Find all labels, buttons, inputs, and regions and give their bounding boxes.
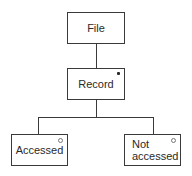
node-record-label: Record bbox=[78, 78, 113, 90]
edge-branch-not-accessed bbox=[153, 117, 154, 134]
node-accessed: Accessed bbox=[11, 134, 68, 166]
iteration-marker-icon bbox=[117, 72, 120, 75]
node-accessed-label: Accessed bbox=[16, 144, 64, 156]
node-file: File bbox=[67, 12, 125, 44]
selection-marker-icon bbox=[171, 138, 176, 143]
edge-branch-horizontal bbox=[38, 117, 154, 118]
node-record: Record bbox=[67, 68, 125, 100]
edge-branch-accessed bbox=[38, 117, 39, 134]
node-file-label: File bbox=[87, 22, 105, 34]
node-not-accessed: Not accessed bbox=[124, 134, 181, 166]
selection-marker-icon bbox=[58, 138, 63, 143]
edge-file-record bbox=[96, 43, 97, 68]
edge-record-trunk bbox=[96, 99, 97, 117]
